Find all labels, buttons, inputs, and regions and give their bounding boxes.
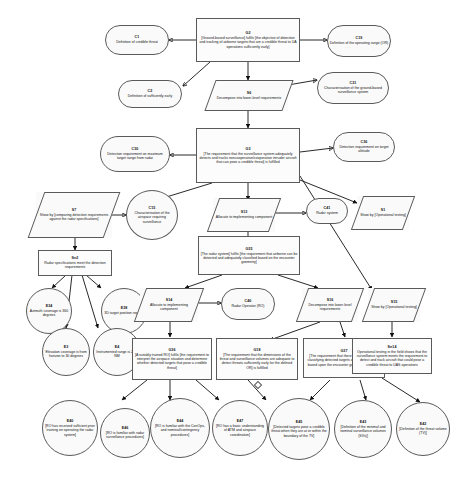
node-id: C2: [148, 89, 153, 93]
node-id: C30: [132, 147, 139, 151]
node-id: E43: [360, 420, 367, 424]
node-id: G3: [246, 147, 251, 151]
node-label: Decompose into lower-level requirements: [302, 303, 358, 312]
node-s16[interactable]: S16 Decompose into lower-level requireme…: [302, 288, 358, 322]
node-id: C1: [135, 35, 140, 39]
node-id: E38: [121, 306, 128, 310]
node-g35[interactable]: G35 [The radar system] fulfils [the requ…: [198, 236, 300, 275]
node-label: Operational testing in the field shows t…: [353, 350, 431, 367]
node-label: Allocate to implementing component: [214, 215, 273, 219]
node-label: Allocate to implementing component: [140, 303, 198, 312]
node-c31[interactable]: C31 Characterisation of the ground-based…: [317, 72, 389, 104]
node-label: [The requirement that the surveillance s…: [197, 152, 299, 165]
node-id: E42: [420, 422, 427, 426]
node-g3[interactable]: G3 [The requirement that the surveillanc…: [196, 128, 300, 183]
node-s14[interactable]: S14 Allocate to implementing component: [140, 288, 198, 322]
node-id: C36: [361, 140, 368, 144]
node-e46[interactable]: E46 [RO is familiar with radar surveilla…: [100, 408, 150, 458]
node-e45[interactable]: E45 [Detected targets pose a credible th…: [268, 398, 330, 460]
node-e3[interactable]: E3 Elevation coverage is from horizon to…: [42, 328, 90, 376]
node-id: G36: [168, 348, 175, 352]
node-sn14[interactable]: Sn14 Operational testing in the field sh…: [352, 338, 432, 374]
node-id: G2: [246, 31, 251, 35]
node-label: Azimuth coverage is 360 degrees: [27, 309, 71, 318]
node-id: C40: [245, 299, 252, 303]
node-e47[interactable]: E47 [RO has a basic understanding of ATM…: [212, 400, 268, 456]
node-label: [Detected targets pose a credible threat…: [269, 425, 329, 438]
node-label: [Ground-based surveillance] fulfils [the…: [197, 36, 299, 49]
node-s6[interactable]: S6 Decompose into lower-level requiremen…: [210, 80, 288, 111]
node-label: [Definition of the threat volume (TV)]: [397, 427, 449, 436]
node-label: Radar Operator (RO): [230, 304, 266, 308]
node-label: [RO is familiar with radar surveillance …: [101, 431, 149, 440]
node-id: S7: [72, 208, 77, 212]
node-label: Definition of credible threat: [115, 40, 160, 44]
node-label: [The radar system] fulfils [the requirem…: [199, 252, 299, 265]
node-id: G35: [245, 247, 252, 251]
node-c15[interactable]: C15 Characterisation of the airspace req…: [126, 190, 178, 240]
node-id: G37: [340, 349, 347, 353]
node-label: Radar specifications meet the detection …: [39, 261, 111, 270]
node-id: Sn14: [388, 345, 397, 349]
node-s1[interactable]: S1 Show by [Operational testing]: [357, 196, 409, 230]
node-g36[interactable]: G36 [A suitably trained RO] fulfils [the…: [132, 338, 212, 380]
node-c19[interactable]: C19 Definition of the operating range (O…: [327, 25, 391, 57]
node-e43[interactable]: E43 [Definition of the minimal and nomin…: [334, 400, 392, 458]
node-id: S1: [381, 208, 386, 212]
node-id: C31: [350, 81, 357, 85]
node-id: G18: [253, 348, 260, 352]
node-id: C15: [149, 206, 156, 210]
node-label: Characterisation of the airspace requiri…: [127, 211, 177, 224]
node-s13[interactable]: S13 Allocate to implementing component: [213, 198, 275, 232]
node-c40[interactable]: C40 Radar Operator (RO): [221, 288, 275, 320]
node-c30[interactable]: C30 Detection requirement on maximum tar…: [100, 136, 170, 172]
node-label: Radar system: [315, 211, 340, 215]
node-id: E3: [64, 345, 69, 349]
node-id: C19: [356, 36, 363, 40]
node-label: [RO has a basic understanding of ATM and…: [213, 424, 267, 437]
node-label: [RO has received sufficient prior traini…: [43, 424, 97, 437]
node-label: Decompose into lower-level requirements: [215, 96, 282, 100]
node-label: Show by [Operational testing]: [370, 305, 419, 309]
node-c1[interactable]: C1 Definition of credible threat: [105, 25, 169, 55]
node-id: E45: [296, 420, 303, 424]
node-label: Detection requirement on maximum target …: [101, 152, 169, 161]
node-label: Definition of the operating range (OR): [328, 41, 389, 45]
node-id: E4: [115, 345, 120, 349]
node-s7[interactable]: S7 Show by [comparing detection requirem…: [36, 192, 112, 238]
node-g18[interactable]: G18 [The requirement that the dimensions…: [216, 338, 298, 380]
node-id: S16: [327, 298, 334, 302]
node-e42[interactable]: E42 [Definition of the threat volume (TV…: [396, 402, 450, 456]
node-e40[interactable]: E40 [RO has received sufficient prior tr…: [42, 400, 98, 456]
node-id: S14: [166, 298, 173, 302]
node-id: C41: [324, 206, 331, 210]
node-id: E47: [237, 419, 244, 423]
node-label: Definition of sufficiently early: [126, 94, 173, 98]
node-label: Detection requirement on target altitude: [334, 145, 394, 154]
node-label: [Definition of the minimal and nominal s…: [335, 425, 391, 438]
node-id: E46: [122, 426, 129, 430]
node-s15[interactable]: S15 Show by [Operational testing]: [368, 288, 420, 322]
node-id: S6: [247, 91, 252, 95]
node-label: Elevation coverage is from horizon to 30…: [43, 350, 89, 359]
node-c36[interactable]: C36 Detection requirement on target alti…: [333, 132, 395, 162]
gsn-diagram-canvas: C1 Definition of credible threat G2 [Gro…: [0, 0, 469, 481]
node-label: [RO is familiar with the ConOps, and nom…: [151, 424, 209, 437]
node-sn2[interactable]: Sn2 Radar specifications meet the detect…: [38, 250, 112, 276]
node-id: E44: [177, 419, 184, 423]
node-c2[interactable]: C2 Definition of sufficiently early: [118, 80, 182, 108]
node-id: S13: [241, 210, 248, 214]
node-id: Sn2: [72, 256, 79, 260]
node-id: S15: [391, 300, 398, 304]
node-id: E34: [46, 304, 53, 308]
node-label: Characterisation of the ground-based sur…: [318, 86, 388, 95]
node-label: Show by [comparing detection requirement…: [36, 213, 112, 222]
undeveloped-marker-g18: [254, 381, 262, 389]
node-label: [A suitably trained RO] fulfils [the req…: [133, 353, 211, 370]
node-g2[interactable]: G2 [Ground-based surveillance] fulfils […: [196, 18, 300, 62]
node-e44[interactable]: E44 [RO is familiar with the ConOps, and…: [150, 398, 210, 458]
node-id: E40: [67, 419, 74, 423]
node-label: [The requirement that the dimensions of …: [217, 353, 297, 370]
node-label: Show by [Operational testing]: [359, 213, 408, 217]
node-c41[interactable]: C41 Radar system: [306, 198, 348, 224]
